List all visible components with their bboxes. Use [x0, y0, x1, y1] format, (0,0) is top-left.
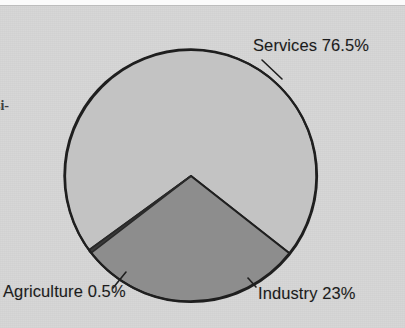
pie-label-industry: Industry 23%	[258, 284, 356, 303]
pie-label-agriculture: Agriculture 0.5%	[3, 282, 126, 301]
figure-container: - si- - Services 76.5% Agriculture 0.5% …	[0, 0, 405, 328]
pie-label-services: Services 76.5%	[253, 36, 369, 55]
